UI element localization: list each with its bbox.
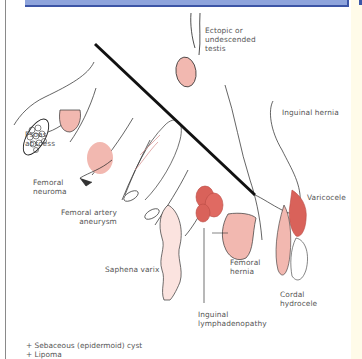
femoral-hernia-illustration (212, 213, 256, 259)
label-femoral-hernia: Femoral hernia (230, 258, 260, 276)
saphena-varix-illustration (160, 205, 181, 300)
inguinal-ligament-line (95, 44, 255, 195)
varicocele-hydrocele-illustration (276, 190, 308, 280)
label-psoas-abscess: Psoas abscess (25, 130, 55, 148)
label-cordal-hydrocele: Cordal hydrocele (280, 290, 317, 308)
label-varicocele: Varicocele (307, 193, 346, 202)
inguinal-lymphadenopathy-illustration (196, 186, 223, 303)
footnote-sebaceous-cyst: + Sebaceous (epidermoid) cyst (26, 342, 142, 350)
label-inguinal-hernia: Inguinal hernia (282, 108, 339, 117)
ectopic-testis-illustration (174, 13, 200, 88)
label-femoral-artery-aneurysm: Femoral artery aneurysm (61, 208, 117, 226)
footnote-lipoma: + Lipoma (26, 351, 62, 359)
thigh-outline (14, 62, 262, 240)
label-inguinal-lymphadenopathy: Inguinal lymphadenopathy (198, 310, 267, 328)
label-femoral-neuroma: Femoral neuroma (33, 178, 67, 196)
label-ectopic-testis: Ectopic or undescended testis (205, 26, 256, 53)
label-saphena-varix: Saphena varix (105, 265, 159, 274)
femoral-neuroma-illustration (80, 142, 113, 186)
femoral-artery-aneurysm-illustration (122, 120, 181, 221)
